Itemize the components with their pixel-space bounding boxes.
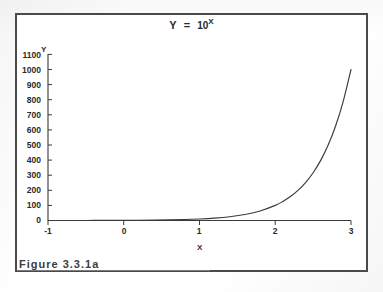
figure-root: Y = 10X <box>0 0 383 292</box>
x-tick-label-3: 3 <box>340 226 362 236</box>
y-tick-label-1000: 1000 <box>13 65 41 75</box>
y-tick-label-300: 300 <box>13 170 41 180</box>
y-tick-label-600: 600 <box>13 125 41 135</box>
y-axis-ticks <box>48 54 52 220</box>
x-tick-label-2: 2 <box>264 226 286 236</box>
y-tick-label-200: 200 <box>13 185 41 195</box>
y-tick-label-700: 700 <box>13 110 41 120</box>
y-tick-label-900: 900 <box>13 80 41 90</box>
x-axis-title: X <box>197 243 202 252</box>
figure-caption-underline <box>17 270 210 271</box>
x-axis-ticks <box>48 221 351 226</box>
x-tick-label-0: 0 <box>113 226 135 236</box>
y-tick-label-400: 400 <box>13 155 41 165</box>
y-axis-title: Y <box>41 45 46 54</box>
y-tick-label-0: 0 <box>13 215 41 225</box>
y-tick-label-500: 500 <box>13 140 41 150</box>
y-tick-label-800: 800 <box>13 95 41 105</box>
data-curve-exponential <box>48 70 351 221</box>
y-tick-label-100: 100 <box>13 200 41 210</box>
y-tick-label-1100: 1100 <box>13 50 41 60</box>
x-tick-label-1: 1 <box>188 226 210 236</box>
x-tick-label-neg1: -1 <box>37 226 59 236</box>
